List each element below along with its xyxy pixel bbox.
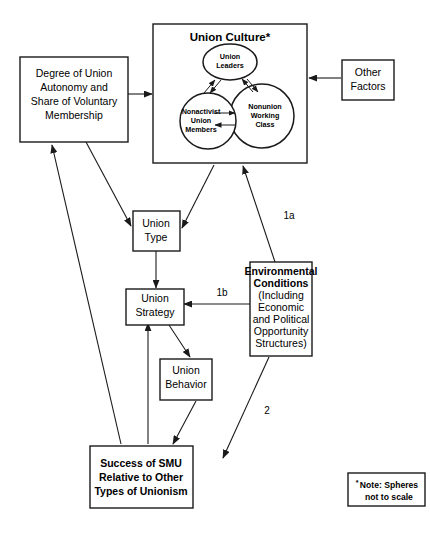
- union-strategy-label-line2: Strategy: [135, 306, 175, 318]
- environmental-conditions-label-line1: Environmental: [245, 265, 318, 277]
- union-culture-title: Union Culture*: [190, 31, 271, 43]
- edge-environment-to-success-2: [223, 357, 269, 458]
- edge-environment-to-culture-1a: [243, 166, 275, 262]
- union-type-label-line1: Union: [142, 217, 170, 229]
- note-label-line1: Note: Spheres: [360, 480, 418, 490]
- environmental-conditions-label-line2: Conditions: [254, 277, 309, 289]
- autonomy-label-line3: Share of Voluntary: [31, 95, 118, 107]
- environmental-conditions-label-line5: and Political: [253, 313, 310, 325]
- environmental-conditions-label-line7: Structures): [255, 337, 306, 349]
- note-asterisk: *: [356, 479, 359, 486]
- sphere-label-nonactivist-line3: Members: [185, 125, 217, 134]
- sphere-label-union-leaders-line2: Leaders: [216, 61, 244, 70]
- success-of-smu-label-line2: Relative to Other: [99, 471, 183, 483]
- union-culture-model-diagram: Union Culture* Union Leaders Nonactivist…: [0, 0, 430, 542]
- edge-success-to-autonomy-feedback: [52, 145, 121, 444]
- environmental-conditions-label-line3: (Including: [258, 289, 304, 301]
- edge-behavior-to-success: [173, 401, 196, 444]
- sphere-label-union-leaders-line1: Union: [220, 52, 240, 61]
- edge-label-1a: 1a: [283, 210, 295, 221]
- environmental-conditions-label-line4: Economic: [258, 301, 304, 313]
- other-factors-label-line1: Other: [355, 66, 382, 78]
- edge-autonomy-to-union-type: [86, 142, 131, 226]
- autonomy-label-line1: Degree of Union: [36, 67, 113, 79]
- note-label-line2: not to scale: [365, 492, 413, 502]
- edge-culture-to-union-type: [182, 165, 214, 228]
- sphere-label-nonactivist-line1: Nonactivist: [182, 107, 221, 116]
- edge-strategy-to-behavior: [169, 325, 190, 357]
- edge-label-2: 2: [264, 405, 270, 416]
- other-factors-label-line2: Factors: [350, 80, 385, 92]
- union-behavior-label-line1: Union: [172, 364, 200, 376]
- diagram-canvas: Union Culture* Union Leaders Nonactivist…: [0, 0, 430, 542]
- success-of-smu-label-line1: Success of SMU: [100, 457, 182, 469]
- autonomy-label-line4: Membership: [45, 109, 103, 121]
- environmental-conditions-label-line6: Opportunity: [254, 325, 309, 337]
- edge-label-1b: 1b: [216, 287, 228, 298]
- sphere-label-nonunion-line3: Class: [255, 120, 274, 129]
- sphere-label-nonactivist-line2: Union: [191, 116, 211, 125]
- autonomy-label-line2: Autonomy and: [40, 81, 108, 93]
- union-type-label-line2: Type: [145, 231, 168, 243]
- sphere-label-nonunion-line1: Nonunion: [248, 102, 282, 111]
- union-strategy-label-line1: Union: [141, 292, 169, 304]
- union-behavior-label-line2: Behavior: [165, 378, 207, 390]
- sphere-label-nonunion-line2: Working: [251, 111, 280, 120]
- success-of-smu-label-line3: Types of Unionism: [94, 485, 187, 497]
